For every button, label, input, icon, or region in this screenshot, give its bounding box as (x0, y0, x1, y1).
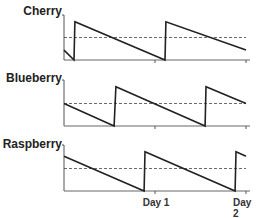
day2-tick-label: Day 2 (233, 197, 259, 218)
raspberry-label: Raspberry (0, 137, 62, 151)
blueberry-series-line (64, 87, 246, 126)
cherry-label: Cherry (0, 4, 62, 18)
sawtooth-chart (0, 0, 272, 218)
cherry-series-line (64, 22, 246, 60)
raspberry-series-line (64, 152, 246, 191)
day1-tick-label: Day 1 (143, 197, 170, 208)
blueberry-label: Blueberry (0, 71, 62, 85)
